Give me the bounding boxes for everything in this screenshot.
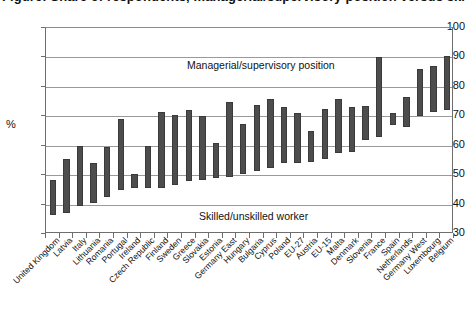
annotation-managerial: Managerial/supervisory position xyxy=(184,59,338,71)
bar-ireland xyxy=(131,174,137,189)
bar-slovakia xyxy=(199,116,205,179)
bar-belgium xyxy=(444,56,450,110)
bar-germany-east xyxy=(226,102,232,177)
bar-malta xyxy=(335,99,341,153)
chart-title-cropped: Figure: Share of respondents, managerial… xyxy=(0,0,465,11)
bar-romania xyxy=(104,147,110,197)
bar-latvia xyxy=(63,159,69,213)
bar-denmark xyxy=(349,107,355,151)
bar-luxembourg xyxy=(430,66,436,112)
bar-slovenia xyxy=(362,106,368,140)
bar-austria xyxy=(308,131,314,162)
bar-portugal xyxy=(118,119,124,190)
bar-finland xyxy=(158,112,164,189)
bar-hungary xyxy=(240,124,246,174)
bar-estonia xyxy=(213,143,219,178)
bar-sweden xyxy=(172,115,178,186)
bar-france xyxy=(376,57,382,136)
bar-cyprus xyxy=(267,99,273,168)
page-title: Figure: Share of respondents, managerial… xyxy=(0,0,465,4)
bar-czech-republic xyxy=(145,146,151,189)
x-axis-labels: United KingdomLatviaItalyLithuaniaRomani… xyxy=(0,236,465,314)
plot-area: Managerial/supervisory position Skilled/… xyxy=(45,27,453,233)
bar-spain xyxy=(390,113,396,125)
bar-poland xyxy=(281,107,287,163)
y-axis-label: % xyxy=(6,118,16,130)
bar-bulgaria xyxy=(254,105,260,171)
bar-eu-15 xyxy=(322,109,328,159)
bar-netherlands xyxy=(403,97,409,126)
bar-italy xyxy=(77,146,83,206)
bar-eu-27 xyxy=(294,113,300,163)
bar-united-kingdom xyxy=(50,180,56,215)
bar-germany-west xyxy=(417,69,423,116)
bar-greece xyxy=(186,110,192,181)
